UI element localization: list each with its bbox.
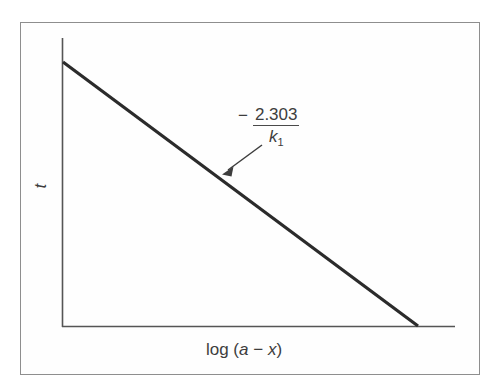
x-axis-operator: − — [249, 340, 268, 359]
slope-denominator-subscript: 1 — [277, 136, 283, 148]
slope-annotation: − 2.303 k1 — [238, 106, 299, 149]
chart-figure: − 2.303 k1 log (a − x) t — [0, 0, 499, 388]
data-line-first-order — [63, 62, 418, 326]
x-axis-label: log (a − x) — [0, 340, 488, 360]
slope-fraction: 2.303 k1 — [253, 106, 300, 149]
annotation-arrow — [222, 145, 262, 177]
y-axis-label: t — [31, 177, 51, 195]
x-axis-variable-a: a — [239, 340, 248, 359]
x-axis-label-prefix: log ( — [206, 340, 239, 359]
slope-denominator: k1 — [253, 126, 300, 149]
slope-minus-sign: − — [238, 106, 253, 125]
x-axis-label-suffix: ) — [276, 340, 282, 359]
plot-area — [0, 0, 499, 388]
slope-numerator: 2.303 — [253, 106, 300, 126]
